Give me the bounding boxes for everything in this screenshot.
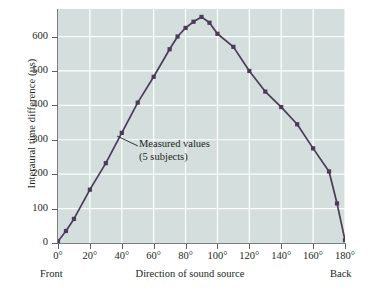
data-point-marker (104, 161, 108, 165)
x-axis-back-label: Back (330, 268, 352, 279)
series-line (58, 17, 345, 241)
y-axis-tick-label: 300 (8, 134, 48, 144)
y-axis-tick-label: 400 (8, 99, 48, 109)
data-point-marker (343, 238, 345, 242)
data-point-marker (231, 45, 235, 49)
y-axis-tick-label: 600 (8, 31, 48, 41)
annotation-line-2: (5 subjects) (139, 151, 210, 164)
y-axis-tick (52, 71, 58, 72)
data-point-marker (191, 20, 195, 24)
y-axis-tick-label: 200 (8, 168, 48, 178)
data-point-marker (175, 34, 179, 38)
data-point-marker (152, 75, 156, 79)
y-axis-tick (52, 140, 58, 141)
y-axis-tick-label: 0 (8, 237, 48, 247)
gridlines (58, 9, 345, 243)
x-axis-tick (249, 244, 250, 249)
data-point-marker (327, 169, 331, 173)
plot-area (58, 9, 345, 243)
x-axis-tick (281, 244, 282, 249)
y-axis-tick (52, 209, 58, 210)
annotation-line-1: Measured values (139, 138, 210, 151)
y-axis-tick (52, 105, 58, 106)
x-axis-tick (313, 244, 314, 249)
data-point-marker (207, 21, 211, 25)
data-point-marker (72, 217, 76, 221)
x-axis-tick-label: 180° (325, 250, 365, 261)
x-axis-tick (122, 244, 123, 249)
x-axis-tick (58, 244, 59, 249)
data-point-marker (311, 146, 315, 150)
chart-figure: Interaural time difference (µs) 01002003… (0, 0, 380, 295)
y-axis-tick (52, 37, 58, 38)
data-point-marker (183, 26, 187, 30)
data-point-marker (136, 101, 140, 105)
data-point-marker (120, 131, 124, 135)
y-axis-tick (52, 174, 58, 175)
data-point-marker (64, 229, 68, 233)
y-axis-tick-label: 100 (8, 203, 48, 213)
data-point-marker (247, 69, 251, 73)
data-point-marker (88, 188, 92, 192)
plot-canvas (58, 9, 345, 243)
data-point-marker (168, 47, 172, 51)
x-axis-tick (186, 244, 187, 249)
data-point-marker (215, 32, 219, 36)
x-axis-line (57, 243, 346, 244)
data-point-marker (279, 105, 283, 109)
x-axis-tick (90, 244, 91, 249)
x-axis-tick (154, 244, 155, 249)
data-point-marker (295, 122, 299, 126)
data-point-marker (335, 201, 339, 205)
x-axis-tick (217, 244, 218, 249)
y-axis-tick-label: 500 (8, 65, 48, 75)
series-annotation: Measured values (5 subjects) (139, 138, 210, 163)
x-axis-tick (345, 244, 346, 249)
data-point-marker (199, 15, 203, 19)
data-point-marker (263, 89, 267, 93)
x-axis-title: Direction of sound source (0, 268, 380, 279)
